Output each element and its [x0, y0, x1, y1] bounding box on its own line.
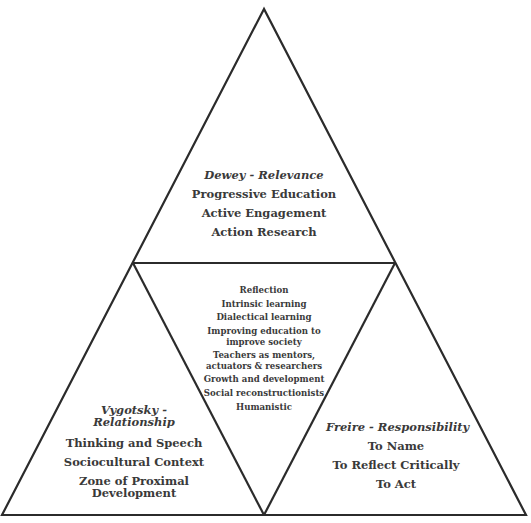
freire-item: To Act	[326, 475, 466, 494]
center-item: Intrinsic learning	[179, 299, 349, 310]
center-item: improve society	[179, 337, 349, 348]
dewey-item: Action Research	[164, 223, 364, 242]
center-section: Reflection Intrinsic learning Dialectica…	[179, 285, 349, 416]
freire-item: To Reflect Critically	[326, 456, 466, 475]
center-item: Dialectical learning	[179, 312, 349, 323]
freire-section: Freire - Responsibility To Name To Refle…	[326, 418, 466, 494]
vygotsky-item: Sociocultural Context	[62, 453, 206, 472]
dewey-title: Dewey - Relevance	[164, 166, 364, 185]
center-item: Teachers as mentors,	[179, 350, 349, 361]
vygotsky-item: Development	[62, 487, 206, 499]
center-item: Growth and development	[179, 374, 349, 385]
center-item: Social reconstructionists	[179, 388, 349, 399]
dewey-item: Progressive Education	[164, 185, 364, 204]
vygotsky-title: Relationship	[62, 416, 206, 428]
freire-item: To Name	[326, 437, 466, 456]
dewey-section: Dewey - Relevance Progressive Education …	[164, 166, 364, 242]
center-item: actuators & researchers	[179, 361, 349, 372]
vygotsky-item: Thinking and Speech	[62, 434, 206, 453]
freire-title: Freire - Responsibility	[326, 418, 466, 437]
center-item: Reflection	[179, 285, 349, 296]
vygotsky-section: Vygotsky - Relationship Thinking and Spe…	[62, 404, 206, 499]
dewey-item: Active Engagement	[164, 204, 364, 223]
center-item: Improving education to	[179, 326, 349, 337]
